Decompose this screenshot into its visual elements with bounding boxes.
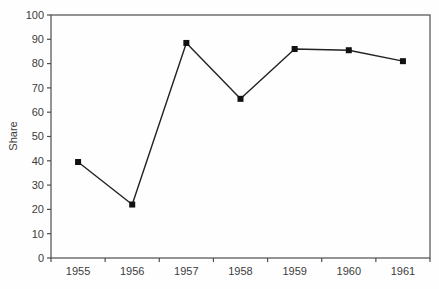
y-tick-label: 50 <box>32 130 44 142</box>
plot-frame <box>51 15 430 258</box>
x-tick-label: 1956 <box>120 265 144 277</box>
data-line-share <box>78 43 403 205</box>
x-tick-label: 1961 <box>391 265 415 277</box>
data-point-1956 <box>129 202 135 208</box>
y-tick-label: 80 <box>32 57 44 69</box>
data-point-1960 <box>346 47 352 53</box>
data-point-1958 <box>238 96 244 102</box>
y-tick-label: 40 <box>32 155 44 167</box>
y-tick-label: 10 <box>32 228 44 240</box>
x-tick-label: 1959 <box>282 265 306 277</box>
data-point-1955 <box>75 159 81 165</box>
x-tick-label: 1960 <box>337 265 361 277</box>
data-point-1957 <box>183 40 189 46</box>
y-axis-title: Share <box>7 121 19 150</box>
y-tick-label: 20 <box>32 203 44 215</box>
x-tick-label: 1958 <box>228 265 252 277</box>
chart: Share 0102030405060708090100195519561957… <box>0 0 439 289</box>
line-chart-canvas: Share 0102030405060708090100195519561957… <box>0 0 439 289</box>
data-point-1959 <box>292 46 298 52</box>
y-tick-label: 30 <box>32 179 44 191</box>
y-tick-label: 0 <box>38 252 44 264</box>
x-tick-label: 1955 <box>66 265 90 277</box>
y-tick-label: 70 <box>32 82 44 94</box>
y-tick-label: 90 <box>32 33 44 45</box>
y-tick-label: 60 <box>32 106 44 118</box>
x-tick-label: 1957 <box>174 265 198 277</box>
y-tick-label: 100 <box>26 9 44 21</box>
data-point-1961 <box>400 58 406 64</box>
